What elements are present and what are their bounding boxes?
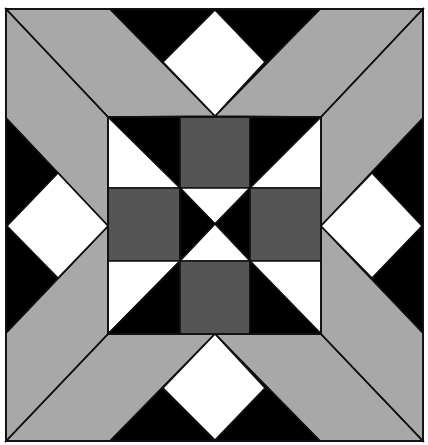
cell-bc-dark <box>180 261 250 334</box>
cell-ml-dark <box>108 188 180 261</box>
quilt-block-diagram <box>0 0 428 445</box>
cell-tc-dark <box>180 117 250 188</box>
cell-mr-dark <box>250 188 321 261</box>
